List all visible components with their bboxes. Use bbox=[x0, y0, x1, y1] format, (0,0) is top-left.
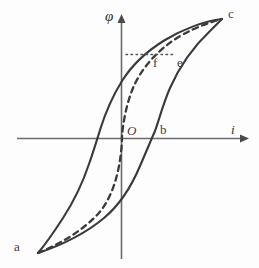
point-label-e: e bbox=[177, 56, 183, 69]
point-label-f: f bbox=[153, 56, 157, 69]
x-axis-label: i bbox=[231, 123, 235, 136]
point-label-a: a bbox=[14, 240, 20, 253]
hysteresis-loop-figure: φ i O b c f e a bbox=[0, 0, 259, 268]
origin-label: O bbox=[127, 124, 136, 137]
point-label-b: b bbox=[160, 123, 167, 136]
x-axis-arrowhead bbox=[240, 135, 249, 143]
point-label-c: c bbox=[228, 7, 234, 20]
y-axis-label: φ bbox=[105, 9, 113, 24]
y-axis-arrowhead bbox=[118, 14, 126, 23]
